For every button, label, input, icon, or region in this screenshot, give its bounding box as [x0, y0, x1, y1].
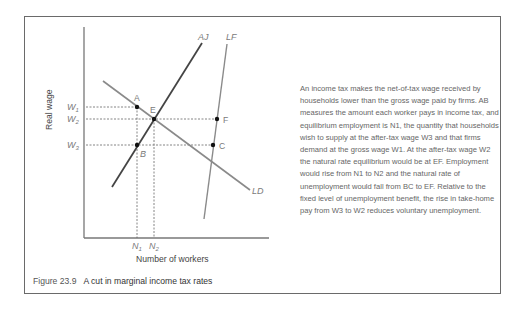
- label-lf: LF: [226, 32, 237, 42]
- tick-w2: W2: [67, 114, 80, 125]
- tick-w1: W1: [67, 102, 79, 113]
- ld-curve: [103, 81, 250, 190]
- figure-title: A cut in marginal income tax rates: [83, 276, 212, 286]
- tick-n2: N2: [149, 241, 160, 252]
- point-f: [215, 117, 219, 121]
- figure-caption: Figure 23.9 A cut in marginal income tax…: [33, 276, 212, 286]
- tick-w3: W3: [67, 140, 80, 151]
- figure-number: Figure 23.9: [33, 276, 76, 286]
- label-f: F: [223, 115, 228, 125]
- point-c: [211, 143, 215, 147]
- tick-n1: N1: [132, 241, 142, 252]
- x-axis-label: Number of workers: [136, 254, 209, 264]
- equilibrium-points: [135, 105, 219, 147]
- point-a: [135, 105, 139, 109]
- dashed-guides: [86, 107, 217, 238]
- point-e: [152, 117, 156, 121]
- label-a: A: [134, 93, 140, 103]
- label-aj: AJ: [197, 32, 209, 42]
- point-b: [135, 143, 139, 147]
- y-axis-label: Real wage: [44, 89, 54, 130]
- label-ld: LD: [252, 186, 264, 196]
- lf-curve: [204, 44, 227, 219]
- aj-curve: [112, 43, 202, 187]
- label-c: C: [219, 141, 225, 151]
- label-b: B: [140, 149, 146, 159]
- label-e: E: [150, 105, 156, 115]
- figure-description: An income tax makes the net-of-tax wage …: [300, 83, 500, 217]
